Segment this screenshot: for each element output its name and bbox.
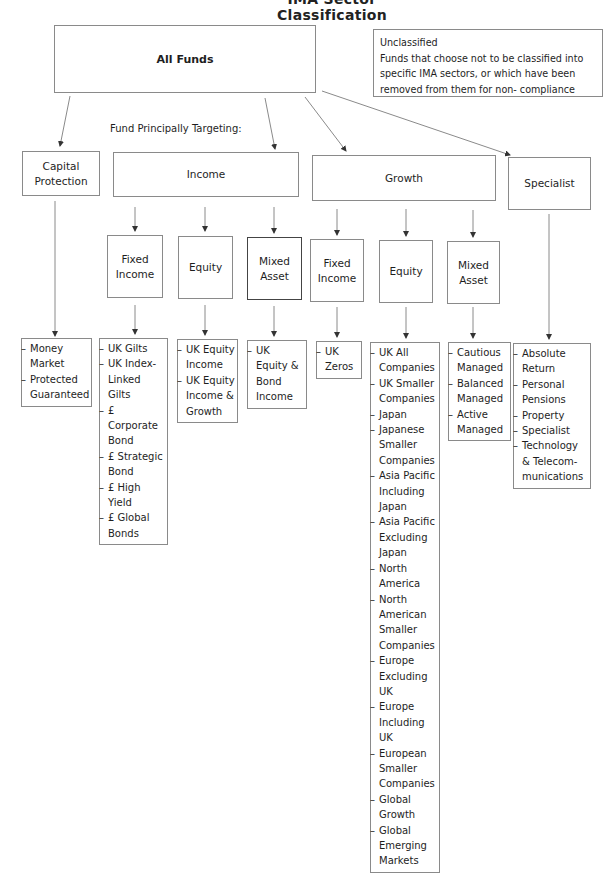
growth-mixed-asset-group: Mixed Asset — [447, 241, 500, 304]
sector-item: Money Market — [22, 341, 89, 372]
category-label: Capital Protection — [31, 159, 91, 189]
group-label: Mixed Asset — [454, 258, 494, 288]
sector-item: Global Emerging Markets — [371, 823, 437, 869]
sector-item: Asia Pacific Including Japan — [371, 468, 437, 514]
category-growth: Growth — [312, 155, 496, 201]
sector-item: £ Corporate Bond — [100, 403, 165, 449]
sector-item: UK Smaller Companies — [371, 376, 437, 407]
sector-item: £ High Yield — [100, 480, 165, 511]
category-label: Income — [187, 167, 226, 182]
sector-item: Property — [514, 408, 588, 423]
sector-item: North America — [371, 561, 437, 592]
sector-item: £ Global Bonds — [100, 510, 165, 541]
specialist-sectors: Absolute Return Personal Pensions Proper… — [513, 343, 591, 489]
sector-item: European Smaller Companies — [371, 746, 437, 792]
income-equity-group: Equity — [178, 236, 233, 299]
group-label: Equity — [389, 264, 422, 279]
sector-item: £ Strategic Bond — [100, 449, 165, 480]
growth-equity-sectors: UK All Companies UK Smaller Companies Ja… — [370, 342, 440, 873]
all-funds-label: All Funds — [157, 52, 214, 67]
category-income: Income — [113, 152, 299, 197]
sector-item: Cautious Managed — [449, 345, 508, 376]
sector-item: UK Equity & Bond Income — [248, 343, 304, 405]
sector-item: Asia Pacific Excluding Japan — [371, 514, 437, 560]
group-label: Fixed Income — [317, 256, 357, 286]
sector-item: UK Equity Income & Growth — [178, 373, 235, 419]
category-label: Growth — [385, 171, 423, 186]
unclassified-heading: Unclassified — [380, 35, 596, 51]
sector-item: Europe Including UK — [371, 699, 437, 745]
growth-mixed-asset-sectors: Cautious Managed Balanced Managed Active… — [448, 342, 511, 441]
sector-item: Absolute Return — [514, 346, 588, 377]
income-mixed-asset-sectors: UK Equity & Bond Income — [247, 340, 307, 409]
unclassified-description: Funds that choose not to be classified i… — [380, 51, 596, 98]
sector-item: Japanese Smaller Companies — [371, 422, 437, 468]
income-fixed-income-sectors: UK Gilts UK Index-Linked Gilts £ Corpora… — [99, 338, 168, 545]
sector-item: Personal Pensions — [514, 377, 588, 408]
sector-item: Japan — [371, 407, 437, 422]
sector-item: UK Gilts — [100, 341, 165, 356]
sector-item: Active Managed — [449, 407, 508, 438]
growth-fixed-income-group: Fixed Income — [310, 239, 364, 302]
sector-item: UK Index-Linked Gilts — [100, 356, 165, 402]
capital-protection-sectors: Money Market Protected Guaranteed — [21, 338, 92, 407]
sector-item: UK All Companies — [371, 345, 437, 376]
all-funds-node: All Funds — [54, 25, 316, 93]
growth-equity-group: Equity — [379, 240, 433, 303]
unclassified-note: Unclassified Funds that choose not to be… — [373, 29, 603, 97]
sector-item: UK Equity Income — [178, 342, 235, 373]
sector-item: Europe Excluding UK — [371, 653, 437, 699]
sector-item: Specialist — [514, 423, 588, 438]
sector-item: Protected Guaranteed — [22, 372, 89, 403]
group-label: Fixed Income — [115, 252, 155, 282]
income-fixed-income-group: Fixed Income — [107, 235, 163, 298]
group-label: Equity — [189, 260, 222, 275]
category-capital-protection: Capital Protection — [22, 151, 100, 196]
sector-item: UK Zeros — [317, 344, 351, 375]
sector-item: Balanced Managed — [449, 376, 508, 407]
sector-item: Global Growth — [371, 792, 437, 823]
growth-fixed-income-sectors: UK Zeros — [316, 341, 362, 379]
income-equity-sectors: UK Equity Income UK Equity Income & Grow… — [177, 339, 238, 423]
category-label: Specialist — [524, 176, 574, 191]
group-label: Mixed Asset — [255, 254, 295, 284]
income-mixed-asset-group: Mixed Asset — [247, 237, 302, 300]
sector-item: North American Smaller Companies — [371, 592, 437, 654]
targeting-label: Fund Principally Targeting: — [110, 123, 242, 134]
category-specialist: Specialist — [508, 157, 591, 210]
sector-item: Technology & Telecom-munications — [514, 438, 588, 484]
